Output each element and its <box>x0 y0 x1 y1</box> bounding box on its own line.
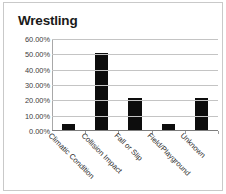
y-tick-label: 50.00% <box>25 50 50 59</box>
y-tick-label: 20.00% <box>25 96 50 105</box>
plot-wrapper: 0.00%10.00%20.00%30.00%40.00%50.00%60.00… <box>14 39 218 131</box>
gridline <box>52 116 218 117</box>
gridline <box>52 39 218 40</box>
y-tick-label: 40.00% <box>25 65 50 74</box>
gridline <box>52 100 218 101</box>
bar <box>195 98 208 130</box>
chart-screenshot: Wrestling 0.00%10.00%20.00%30.00%40.00%5… <box>0 0 226 194</box>
gridline <box>52 85 218 86</box>
chart-frame: Wrestling 0.00%10.00%20.00%30.00%40.00%5… <box>3 2 223 191</box>
gridline <box>52 70 218 71</box>
bar <box>62 124 75 130</box>
bar <box>162 124 175 130</box>
chart-title: Wrestling <box>18 13 77 28</box>
y-tick-label: 60.00% <box>25 35 50 44</box>
y-tick-label: 30.00% <box>25 81 50 90</box>
x-category-label: Fall or Slip <box>113 131 145 163</box>
x-category-label: Unknown <box>179 131 208 160</box>
bar <box>128 98 141 130</box>
x-axis-category-labels: Climatic ConditionCollision ImpactFall o… <box>14 131 220 191</box>
gridline <box>52 54 218 55</box>
y-axis-tick-labels: 0.00%10.00%20.00%30.00%40.00%50.00%60.00… <box>14 39 50 131</box>
y-tick-label: 10.00% <box>25 111 50 120</box>
bar <box>95 53 108 130</box>
plot-area <box>52 39 218 131</box>
